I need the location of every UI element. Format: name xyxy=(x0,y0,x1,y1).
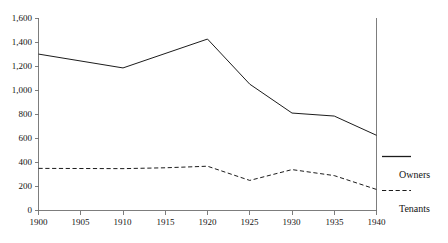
x-tick-label-1905: 1905 xyxy=(61,218,100,227)
series-line-tenants xyxy=(39,166,377,189)
x-tick-label-1920: 1920 xyxy=(188,218,227,227)
y-tick-label-1200: 1,200 xyxy=(0,62,32,71)
y-tick-marks xyxy=(35,19,39,211)
x-tick-label-1900: 1900 xyxy=(19,218,58,227)
y-tick-label-1000: 1,000 xyxy=(0,86,32,95)
legend-label-owners: Owners xyxy=(399,169,430,180)
y-tick-label-1600: 1,600 xyxy=(0,14,32,23)
x-tick-label-1930: 1930 xyxy=(272,218,311,227)
x-tick-label-1940: 1940 xyxy=(357,218,396,227)
series-line-owners xyxy=(39,39,377,135)
x-tick-label-1915: 1915 xyxy=(146,218,185,227)
plot-area xyxy=(0,0,448,243)
x-tick-marks xyxy=(39,211,377,215)
y-tick-label-1400: 1,400 xyxy=(0,38,32,47)
y-tick-label-0: 0 xyxy=(0,206,32,215)
x-tick-label-1935: 1935 xyxy=(315,218,354,227)
y-tick-label-800: 800 xyxy=(0,110,32,119)
y-tick-label-400: 400 xyxy=(0,158,32,167)
y-tick-label-600: 600 xyxy=(0,134,32,143)
y-tick-label-200: 200 xyxy=(0,182,32,191)
x-tick-label-1910: 1910 xyxy=(103,218,142,227)
chart-figure: 1,600 1,400 1,200 1,000 800 600 400 200 … xyxy=(0,0,448,243)
x-tick-label-1925: 1925 xyxy=(230,218,269,227)
legend-label-tenants: Tenants xyxy=(399,203,430,214)
